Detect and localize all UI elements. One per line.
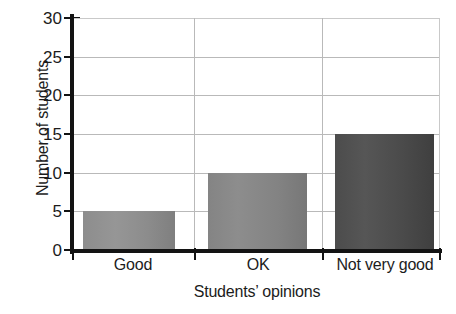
gridline-x-right-edge — [439, 18, 440, 250]
x-tick-mark-1 — [194, 248, 196, 260]
bar-not-very-good — [335, 134, 434, 250]
x-tick-mark-right — [439, 248, 441, 260]
gridline-x-1 — [194, 18, 195, 250]
x-tick-label-not-very-good: Not very good — [336, 256, 433, 274]
bar-ok — [208, 173, 307, 250]
y-tick-label-25: 25 — [22, 48, 62, 65]
y-axis-line — [70, 14, 74, 254]
gridline-y-25 — [73, 57, 440, 58]
y-tick-label-5: 5 — [22, 203, 62, 220]
x-tick-label-good: Good — [114, 256, 152, 274]
bar-chart: Number of students 30 25 20 15 10 5 0 — [0, 0, 456, 314]
bar-good — [83, 211, 175, 250]
y-axis-tick-group: 30 25 20 15 10 5 0 — [0, 0, 62, 314]
x-tick-mark-left — [72, 248, 74, 260]
y-tick-label-10: 10 — [22, 164, 62, 181]
gridline-y-20 — [73, 95, 440, 96]
x-tick-label-ok: OK — [247, 256, 270, 274]
gridline-x-2 — [322, 18, 323, 250]
x-axis-line — [70, 249, 442, 253]
y-tick-label-30: 30 — [22, 10, 62, 27]
y-tick-label-0: 0 — [22, 242, 62, 259]
x-tick-mark-2 — [322, 248, 324, 260]
plot-area — [73, 18, 440, 250]
y-tick-label-15: 15 — [22, 126, 62, 143]
gridline-y-30 — [73, 18, 440, 19]
x-axis-title: Students’ opinions — [73, 283, 441, 301]
y-tick-label-20: 20 — [22, 87, 62, 104]
